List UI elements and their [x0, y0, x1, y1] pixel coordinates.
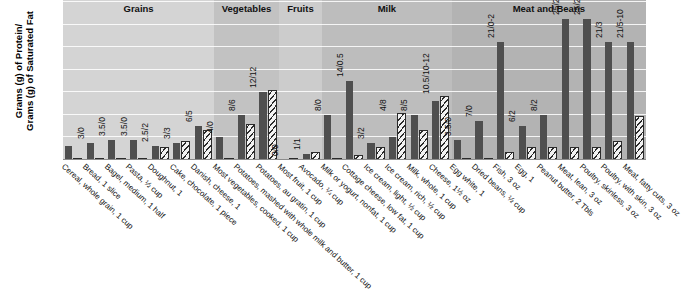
group-title-fruits: Fruits	[279, 3, 322, 14]
bar-value-label: 3.5/0	[97, 117, 107, 136]
bar-value-label: 7/0	[464, 105, 474, 117]
protein-bar	[130, 140, 137, 160]
bar-value-label: 3.5/0	[119, 117, 129, 136]
group-title-milk: Milk	[322, 3, 452, 14]
protein-bar	[346, 81, 353, 160]
bar-pair: 8/2	[538, 0, 560, 160]
protein-bar	[627, 42, 634, 161]
bar-pair: 8/0	[322, 0, 344, 160]
bar-pair: 0/0	[279, 0, 301, 160]
protein-bar	[108, 140, 115, 160]
bar-value-label: 12/12	[248, 67, 258, 88]
saturated-fat-bar	[570, 147, 579, 160]
bar-pair: 21/5-10	[624, 0, 646, 160]
protein-bar	[411, 115, 418, 160]
bar-value-label: 8/0	[313, 99, 323, 111]
bar-value-label: 0/0	[270, 144, 280, 156]
bar-pair: 12/12	[257, 0, 279, 160]
protein-bar	[562, 19, 569, 160]
protein-bar	[605, 42, 612, 161]
group-title-vegetables: Vegetables	[214, 3, 279, 14]
protein-bar	[195, 126, 202, 160]
saturated-fat-bar	[419, 130, 428, 160]
protein-bar	[173, 143, 180, 160]
bar-value-label: 2.5/0	[63, 123, 64, 142]
bar-value-label: 3/0	[76, 127, 86, 139]
protein-bar	[475, 121, 482, 161]
protein-bar	[216, 137, 223, 160]
saturated-fat-bar	[246, 124, 255, 160]
bar-pair: 6/5	[193, 0, 215, 160]
bar-value-label: 1/1	[292, 139, 302, 151]
bar-value-label: 2.5/2	[140, 123, 150, 142]
protein-bar	[454, 140, 461, 160]
bar-pair: 3.5/0	[106, 0, 128, 160]
protein-bar	[152, 146, 159, 160]
bar-pair: 3/0	[85, 0, 107, 160]
bar-value-label: 8/2	[529, 99, 539, 111]
bar-pair: 4/8	[387, 0, 409, 160]
y-axis-title-line-2: Grams (g) of Saturated Fat	[24, 0, 35, 151]
group-title-meat-and-beans: Meat and Beans	[452, 3, 646, 14]
protein-bar	[497, 42, 504, 161]
protein-bar	[259, 92, 266, 160]
bar-value-label: 6/2	[507, 110, 517, 122]
bar-pair: 25/2	[560, 0, 582, 160]
bar-pair: 3/3	[171, 0, 193, 160]
bar-value-label: 10.5/10-12	[421, 53, 431, 94]
protein-bar	[540, 115, 547, 160]
bar-pair: 3/2	[365, 0, 387, 160]
bar-value-label: 6/5	[184, 110, 194, 122]
protein-bar	[367, 143, 374, 160]
bar-value-label: 4/0	[205, 122, 215, 134]
saturated-fat-bar	[548, 147, 557, 160]
protein-bar	[324, 115, 331, 160]
bar-value-label: 21/3	[594, 21, 604, 38]
saturated-fat-bar	[527, 147, 536, 160]
protein-bar	[389, 137, 396, 160]
protein-bar	[432, 101, 439, 160]
saturated-fat-bar	[592, 147, 601, 160]
protein-bar	[65, 146, 72, 160]
protein-bar	[238, 115, 245, 160]
bar-pair: 10.5/10-12	[430, 0, 452, 160]
bar-value-label: 4/8	[378, 99, 388, 111]
saturated-fat-bar	[181, 141, 190, 160]
bar-value-label: 14/0.5	[335, 53, 345, 77]
saturated-fat-bar	[203, 130, 212, 160]
saturated-fat-bar	[160, 147, 169, 160]
bar-pair: 3.5/0	[452, 0, 474, 160]
bar-value-label: 8/5	[399, 99, 409, 111]
bar-value-label: 8/6	[227, 99, 237, 111]
bar-pair: 1/1	[301, 0, 323, 160]
bar-pair: 21/0-2	[495, 0, 517, 160]
saturated-fat-bar	[397, 113, 406, 160]
group-title-grains: Grains	[63, 3, 214, 14]
protein-bar	[583, 19, 590, 160]
y-axis-title-line-1: Grams (g) of Protein/	[13, 0, 24, 151]
saturated-fat-bar	[613, 141, 622, 160]
category-axis-labels: Cereal, whole grain, 1 cupBread, 1 slice…	[63, 160, 646, 296]
bar-value-label: 3/3	[162, 127, 172, 139]
saturated-fat-bar	[376, 147, 385, 160]
bar-value-label: 3.5/0	[443, 117, 453, 136]
bar-value-label: 21/0-2	[486, 13, 496, 37]
protein-bar	[519, 126, 526, 160]
y-axis-title: Grams (g) of Protein/ Grams (g) of Satur…	[13, 0, 43, 151]
protein-bar	[87, 143, 94, 160]
bar-value-label: 3/2	[356, 127, 366, 139]
saturated-fat-bar	[635, 116, 644, 160]
plot-area: 2.5/03/03.5/03.5/02.5/23/36/54/08/612/12…	[63, 0, 646, 160]
bar-pair: 4/0	[214, 0, 236, 160]
bar-pair: 6/2	[516, 0, 538, 160]
